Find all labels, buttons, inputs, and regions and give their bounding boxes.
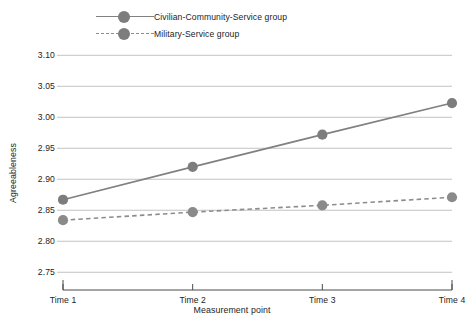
gridlines-group [63,55,452,272]
y-tick-label: 2.75 [25,267,55,277]
data-point [58,215,68,225]
data-point [317,130,327,140]
y-tick-label: 2.85 [25,205,55,215]
y-tick-label: 2.90 [25,174,55,184]
y-tick-label: 3.00 [25,112,55,122]
y-axis-title: Agreeableness [8,113,18,233]
data-point [447,98,457,108]
data-point [188,162,198,172]
x-tick-label: Time 4 [422,295,470,305]
data-point [188,207,198,217]
series-line-2 [63,197,452,220]
data-point [58,195,68,205]
y-tick-label: 3.05 [25,81,55,91]
data-point [447,192,457,202]
data-point [317,200,327,210]
x-tick-label: Time 3 [292,295,352,305]
y-tick-label: 2.95 [25,143,55,153]
axes-group [57,55,452,290]
x-tick-label: Time 2 [163,295,223,305]
y-tick-label: 3.10 [25,50,55,60]
y-tick-label: 2.80 [25,236,55,246]
x-tick-label: Time 1 [33,295,93,305]
series-lines-group [63,103,452,220]
x-axis-title: Measurement point [0,305,464,315]
